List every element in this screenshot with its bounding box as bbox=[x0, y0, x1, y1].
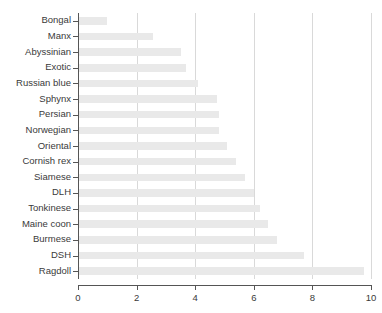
bar bbox=[78, 158, 236, 166]
y-axis-tick bbox=[73, 130, 78, 131]
y-axis-tick bbox=[73, 52, 78, 53]
x-axis-label: 6 bbox=[242, 292, 266, 303]
x-axis-tick bbox=[78, 285, 79, 290]
bar bbox=[78, 142, 227, 150]
bar bbox=[78, 236, 277, 244]
bar-row bbox=[78, 252, 371, 260]
x-axis-label: 10 bbox=[359, 292, 382, 303]
bar bbox=[78, 127, 219, 135]
y-axis-line bbox=[78, 13, 79, 279]
gridline bbox=[371, 13, 372, 279]
y-axis-tick bbox=[73, 83, 78, 84]
bar bbox=[78, 205, 260, 213]
y-axis-tick bbox=[73, 99, 78, 100]
y-axis-label: Abyssinian bbox=[3, 47, 71, 57]
y-axis-label: Bongal bbox=[3, 15, 71, 25]
x-axis-tick bbox=[254, 285, 255, 290]
y-axis-tick bbox=[73, 271, 78, 272]
y-axis-label: Manx bbox=[3, 31, 71, 41]
bar-row bbox=[78, 189, 371, 197]
bar-row bbox=[78, 142, 371, 150]
bar-row bbox=[78, 80, 371, 88]
y-axis-tick bbox=[73, 256, 78, 257]
y-axis-tick bbox=[73, 224, 78, 225]
y-axis-label: Burmese bbox=[3, 234, 71, 244]
x-axis-tick bbox=[371, 285, 372, 290]
bar-row bbox=[78, 267, 371, 275]
bar-row bbox=[78, 174, 371, 182]
bar-row bbox=[78, 205, 371, 213]
bar-row bbox=[78, 158, 371, 166]
bar bbox=[78, 267, 364, 275]
bar bbox=[78, 80, 198, 88]
x-axis-label: 4 bbox=[183, 292, 207, 303]
y-axis-tick bbox=[73, 68, 78, 69]
y-axis-label: Sphynx bbox=[3, 94, 71, 104]
bar-row bbox=[78, 64, 371, 72]
y-axis-label: Tonkinese bbox=[3, 203, 71, 213]
bar-row bbox=[78, 220, 371, 228]
x-axis-label: 0 bbox=[66, 292, 90, 303]
y-axis-tick bbox=[73, 209, 78, 210]
bar-row bbox=[78, 33, 371, 41]
y-axis-tick bbox=[73, 21, 78, 22]
y-axis-tick bbox=[73, 146, 78, 147]
bar bbox=[78, 64, 186, 72]
plot-area bbox=[78, 13, 371, 279]
bar bbox=[78, 17, 107, 25]
y-axis-label: Norwegian bbox=[3, 125, 71, 135]
x-axis-tick bbox=[195, 285, 196, 290]
y-axis-tick bbox=[73, 36, 78, 37]
bar bbox=[78, 220, 268, 228]
y-axis-label: Siamese bbox=[3, 172, 71, 182]
y-axis-tick bbox=[73, 240, 78, 241]
x-axis-line bbox=[78, 285, 372, 286]
y-axis-label: DSH bbox=[3, 250, 71, 260]
bar bbox=[78, 33, 153, 41]
y-axis-tick bbox=[73, 115, 78, 116]
y-axis-label: Exotic bbox=[3, 62, 71, 72]
y-axis-label: Maine coon bbox=[3, 219, 71, 229]
y-axis-label: DLH bbox=[3, 187, 71, 197]
y-axis-labels: BongalManxAbyssinianExoticRussian blueSp… bbox=[0, 0, 71, 313]
bar-row bbox=[78, 236, 371, 244]
x-axis-tick bbox=[312, 285, 313, 290]
bar-row bbox=[78, 127, 371, 135]
bar bbox=[78, 189, 254, 197]
bar-chart: BongalManxAbyssinianExoticRussian blueSp… bbox=[0, 0, 382, 313]
y-axis-label: Russian blue bbox=[3, 78, 71, 88]
x-axis-tick bbox=[137, 285, 138, 290]
y-axis-tick bbox=[73, 162, 78, 163]
bar-row bbox=[78, 111, 371, 119]
y-axis-label: Ragdoll bbox=[3, 266, 71, 276]
y-axis-label: Oriental bbox=[3, 141, 71, 151]
y-axis-label: Persian bbox=[3, 109, 71, 119]
y-axis-tick bbox=[73, 177, 78, 178]
x-axis-label: 8 bbox=[300, 292, 324, 303]
bar bbox=[78, 48, 181, 56]
bar bbox=[78, 111, 219, 119]
bar bbox=[78, 95, 217, 103]
bar-row bbox=[78, 48, 371, 56]
y-axis-tick bbox=[73, 193, 78, 194]
bar bbox=[78, 174, 245, 182]
bar-row bbox=[78, 17, 371, 25]
bar bbox=[78, 252, 304, 260]
x-axis-label: 2 bbox=[125, 292, 149, 303]
y-axis-label: Cornish rex bbox=[3, 156, 71, 166]
bar-row bbox=[78, 95, 371, 103]
